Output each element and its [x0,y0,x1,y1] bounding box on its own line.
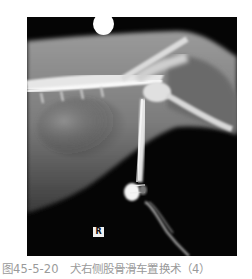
side-marker: R [93,227,104,237]
xray-image: R [27,17,237,256]
xray-illustration [27,17,237,256]
figure-caption: 图45-5-20 犬右侧股骨滑车置换术（4） [2,260,210,276]
